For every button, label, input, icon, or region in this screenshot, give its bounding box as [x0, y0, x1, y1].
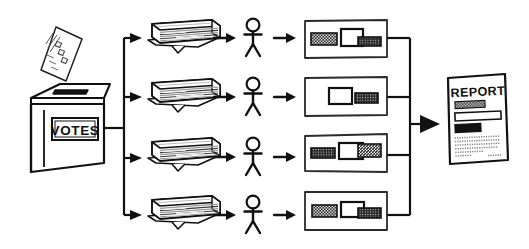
- tally-card[interactable]: [305, 134, 387, 172]
- tally-card[interactable]: [305, 20, 387, 58]
- diagram-canvas: VOTES: [0, 0, 529, 249]
- report-block-outline: [455, 111, 501, 121]
- branch-row-4: [148, 192, 387, 233]
- paper-stack[interactable]: [148, 196, 220, 229]
- tally-card[interactable]: [305, 192, 387, 230]
- tally-item-dark: [358, 37, 381, 46]
- branch-row-3: [148, 134, 387, 175]
- paper-stack[interactable]: [148, 138, 220, 171]
- counter-person[interactable]: [245, 78, 262, 115]
- tally-item-dark: [358, 208, 381, 218]
- ballot-box[interactable]: VOTES: [31, 27, 110, 172]
- counter-person[interactable]: [245, 19, 262, 56]
- counter-person[interactable]: [245, 138, 262, 175]
- paper-stack[interactable]: [148, 20, 220, 53]
- report-block-dark: [455, 100, 485, 108]
- workflow-diagram: VOTES: [0, 0, 529, 249]
- tally-card[interactable]: [305, 77, 387, 116]
- tally-item-hatched: [358, 144, 381, 157]
- counter-person[interactable]: [245, 196, 262, 233]
- fan-in-connector: [387, 38, 424, 215]
- tally-item-dark: [355, 93, 378, 103]
- arrow-connector: [274, 92, 296, 102]
- tally-item-dark: [311, 148, 335, 158]
- ballot-box-label: VOTES: [51, 123, 100, 138]
- fan-out-connector: [104, 38, 132, 215]
- ballot-paper-icon: [41, 27, 82, 81]
- branch-row-2: [148, 77, 387, 116]
- paper-stack[interactable]: [148, 79, 220, 112]
- tally-item-hatched: [311, 33, 337, 45]
- tally-item-outline: [329, 88, 352, 104]
- report-block-dark: [455, 123, 481, 132]
- tally-item-hatched: [312, 205, 337, 217]
- report-document[interactable]: REPORT: [448, 74, 508, 164]
- arrow-connector: [274, 152, 296, 162]
- branch-row-1: [148, 19, 387, 58]
- report-title: REPORT: [450, 84, 505, 100]
- fan-out-arrowheads: [130, 33, 142, 220]
- arrow-connector: [274, 33, 296, 43]
- arrow-connector: [274, 210, 296, 220]
- fan-in-arrowhead: [420, 115, 440, 133]
